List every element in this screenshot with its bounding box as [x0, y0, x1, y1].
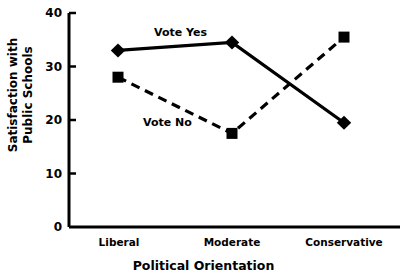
- y-tick-label-0: 0: [26, 221, 62, 233]
- x-category-label-moderate: Moderate: [183, 236, 281, 248]
- y-axis-title: Satisfaction with Public Schools: [6, 0, 40, 190]
- x-category-label-conservative: Conservative: [291, 236, 397, 248]
- series-vote-no-marker-conservative: [339, 32, 350, 43]
- series-vote-yes-line: [118, 42, 344, 122]
- series-annotation-vote-yes: Vote Yes: [154, 27, 207, 39]
- chart-figure: 40 30 20 10 0 Liberal Moderate Conservat…: [0, 0, 407, 280]
- series-vote-no-marker-moderate: [227, 128, 238, 139]
- series-annotation-vote-no: Vote No: [143, 117, 192, 129]
- series-vote-no-marker-liberal: [113, 72, 124, 83]
- x-category-label-liberal: Liberal: [70, 236, 168, 248]
- y-axis-title-line2: Public Schools: [21, 0, 36, 190]
- y-axis-title-line1: Satisfaction with: [6, 0, 21, 190]
- series-vote-yes-marker-liberal: [111, 43, 125, 57]
- x-axis-title: Political Orientation: [0, 258, 407, 273]
